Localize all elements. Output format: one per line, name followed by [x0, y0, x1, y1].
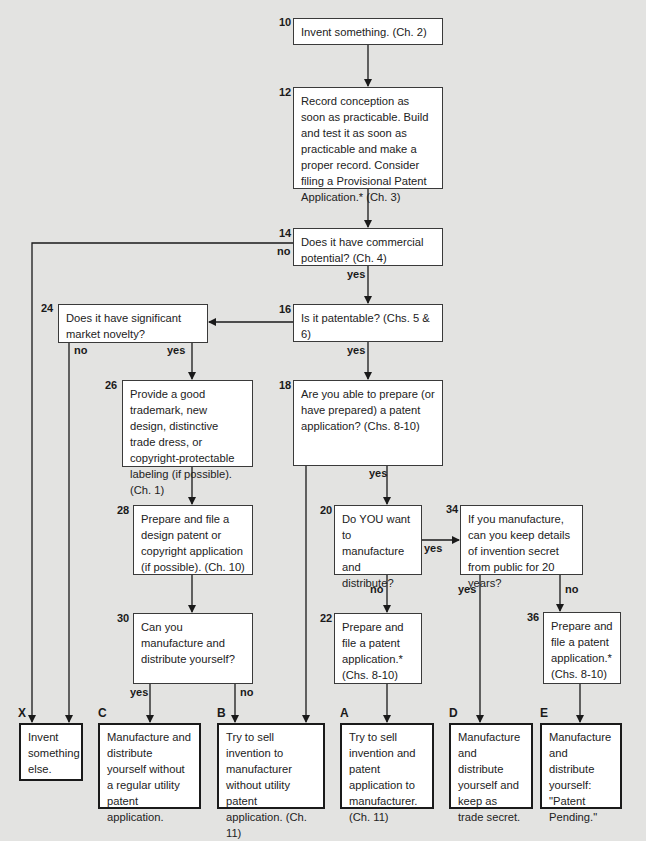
outcome-letter: B [217, 706, 226, 720]
step-number: 30 [117, 612, 129, 624]
step-number: 10 [279, 16, 291, 28]
node-text: Prepare and file a design patent or copy… [141, 513, 245, 573]
outcome-text: Invent something else. [28, 731, 80, 775]
node-text: Invent something. (Ch. 2) [301, 26, 427, 38]
node-text: Record conception as soon as practicable… [301, 95, 429, 203]
edge-label-yes: yes [347, 344, 365, 356]
step-number: 16 [279, 303, 291, 315]
edge-label-no: no [74, 344, 87, 356]
step-number: 20 [320, 504, 332, 516]
edge-label-yes: yes [167, 344, 185, 356]
node-28: Prepare and file a design patent or copy… [133, 505, 253, 575]
node-30: Can you manufacture and distribute yours… [133, 613, 253, 684]
outcome-letter: D [449, 706, 458, 720]
outcome-x: Invent something else. [19, 723, 83, 781]
step-number: 26 [105, 379, 117, 391]
step-number: 14 [279, 227, 291, 239]
node-26: Provide a good trademark, new design, di… [122, 380, 253, 467]
outcome-e: Manufacture and distribute yourself: "Pa… [540, 723, 622, 809]
node-14: Does it have commercial potential? (Ch. … [293, 228, 443, 266]
step-number: 36 [527, 611, 539, 623]
outcome-d: Manufacture and distribute yourself and … [449, 723, 533, 809]
edge-label-no: no [565, 583, 578, 595]
node-34: If you manufacture, can you keep details… [460, 505, 583, 575]
step-number: 24 [41, 302, 53, 314]
outcome-text: Manufacture and distribute yourself and … [458, 731, 520, 823]
step-number: 28 [117, 504, 129, 516]
node-text: Is it patentable? (Chs. 5 & 6) [301, 312, 430, 340]
node-text: Are you able to prepare (or have prepare… [301, 388, 435, 432]
node-36: Prepare and file a patent application.* … [543, 612, 621, 684]
edge-label-no: no [370, 583, 383, 595]
outcome-b: Try to sell invention to manufacturer wi… [217, 723, 325, 809]
edge-label-yes: yes [347, 268, 365, 280]
edge-label-no: no [240, 686, 253, 698]
edge-label-yes: yes [130, 686, 148, 698]
step-number: 18 [279, 379, 291, 391]
outcome-letter: X [18, 706, 26, 720]
node-text: Does it have significant market novelty? [66, 312, 181, 340]
node-20: Do YOU want to manufacture and distribut… [334, 505, 422, 575]
edge-label-yes: yes [369, 467, 387, 479]
edge-label-yes: yes [458, 583, 476, 595]
outcome-text: Try to sell invention to manufacturer wi… [226, 731, 307, 839]
outcome-a: Try to sell invention and patent applica… [340, 723, 434, 809]
node-10: Invent something. (Ch. 2) [293, 18, 443, 45]
node-text: Prepare and file a patent application.* … [551, 620, 613, 680]
edge-label-no: no [277, 245, 290, 257]
node-12: Record conception as soon as practicable… [293, 87, 443, 189]
outcome-letter: C [98, 706, 107, 720]
node-24: Does it have significant market novelty? [58, 304, 208, 343]
outcome-c: Manufacture and distribute yourself with… [98, 723, 201, 809]
node-22: Prepare and file a patent application.* … [334, 613, 422, 684]
step-number: 34 [446, 503, 458, 515]
outcome-letter: E [540, 706, 548, 720]
node-text: Prepare and file a patent application.* … [342, 621, 404, 681]
node-text: Does it have commercial potential? (Ch. … [301, 236, 423, 264]
node-text: Provide a good trademark, new design, di… [130, 388, 234, 496]
node-18: Are you able to prepare (or have prepare… [293, 380, 443, 466]
step-number: 12 [279, 86, 291, 98]
node-text: Can you manufacture and distribute yours… [141, 621, 235, 665]
node-16: Is it patentable? (Chs. 5 & 6) [293, 304, 443, 342]
edge-label-yes: yes [424, 542, 442, 554]
step-number: 22 [320, 612, 332, 624]
outcome-letter: A [340, 706, 349, 720]
